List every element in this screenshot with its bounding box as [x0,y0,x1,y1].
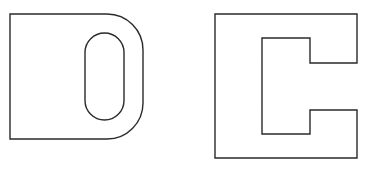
d-shape-slot [85,33,124,120]
d-shape-outline [10,14,143,139]
c-shape-outline [215,14,357,158]
c-shaped-block [215,14,357,158]
figure-canvas [0,0,368,172]
d-shaped-block [10,14,143,139]
